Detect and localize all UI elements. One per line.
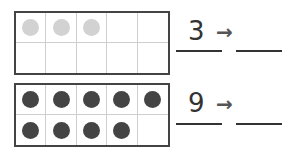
ten-frame-1 — [14, 11, 170, 75]
counter-dot — [53, 19, 70, 36]
ten-frame-cell — [107, 43, 137, 73]
ten-frame-cell — [138, 43, 168, 73]
given-number-2: 9 — [188, 90, 205, 116]
counter-dot — [22, 122, 39, 139]
blank-line-number-2 — [176, 123, 222, 125]
counter-dot — [53, 91, 70, 108]
ten-frame-cell — [77, 115, 107, 145]
ten-frame-cell — [107, 115, 137, 145]
arrow-icon: → — [216, 94, 233, 114]
ten-frame-cell — [16, 13, 46, 43]
answer-blank-1[interactable] — [236, 50, 282, 52]
ten-frame-cell — [46, 43, 76, 73]
blank-line-number-1 — [176, 50, 222, 52]
ten-frame-cell — [16, 85, 46, 115]
ten-frame-cell — [46, 85, 76, 115]
ten-frame-cell — [138, 13, 168, 43]
ten-frame-cell — [77, 43, 107, 73]
ten-frame-cell — [46, 115, 76, 145]
counter-dot — [144, 91, 161, 108]
ten-frame-cell — [107, 13, 137, 43]
counter-dot — [113, 91, 130, 108]
arrow-icon: → — [216, 22, 233, 42]
answer-blank-2[interactable] — [236, 123, 282, 125]
counter-dot — [22, 91, 39, 108]
counter-dot — [53, 122, 70, 139]
counter-dot — [113, 122, 130, 139]
counter-dot — [83, 91, 100, 108]
ten-frame-cell — [16, 115, 46, 145]
ten-frame-cell — [77, 85, 107, 115]
counter-dot — [83, 122, 100, 139]
ten-frame-cell — [138, 85, 168, 115]
counter-dot — [22, 19, 39, 36]
ten-frame-cell — [107, 85, 137, 115]
counter-dot — [83, 19, 100, 36]
ten-frame-cell — [77, 13, 107, 43]
ten-frame-cell — [46, 13, 76, 43]
ten-frame-2 — [14, 83, 170, 147]
given-number-1: 3 — [188, 18, 205, 44]
ten-frame-cell — [16, 43, 46, 73]
ten-frame-cell — [138, 115, 168, 145]
